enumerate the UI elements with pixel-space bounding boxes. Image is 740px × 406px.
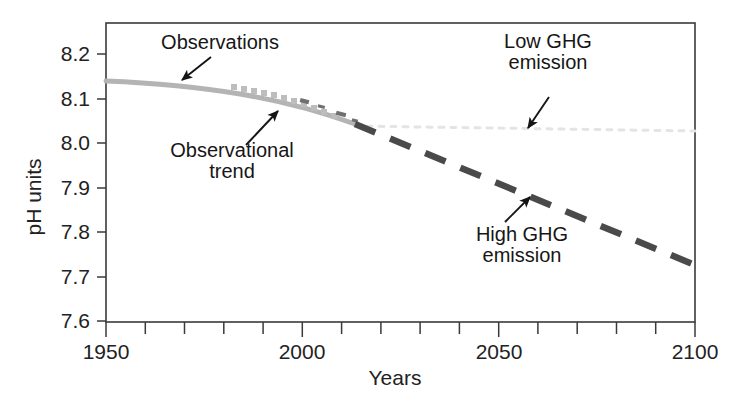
y-axis-ticks — [97, 54, 106, 321]
observational-trend-line-2: trend — [142, 161, 322, 182]
x-axis-title: Years — [340, 366, 450, 390]
low-ghg-arrow — [528, 97, 549, 128]
observations-arrow — [182, 57, 211, 80]
observational-trend-line-1: Observational — [142, 140, 322, 161]
high-ghg-line-2: emission — [447, 245, 597, 266]
series-low-ghg-emission — [355, 126, 695, 131]
y-tick-label-8-1: 8.1 — [30, 87, 90, 111]
y-tick-label-8-2: 8.2 — [30, 42, 90, 66]
series-observational-trend — [106, 81, 355, 124]
x-tick-label-2000: 2000 — [262, 340, 342, 364]
x-tick-label-1950: 1950 — [66, 340, 146, 364]
annotation-observations: Observations — [150, 32, 290, 53]
annotation-observational-trend: Observational trend — [142, 140, 322, 182]
annotation-low-ghg-emission: Low GHG emission — [473, 31, 623, 73]
x-tick-label-2050: 2050 — [459, 340, 539, 364]
low-ghg-line-2: emission — [473, 52, 623, 73]
annotation-high-ghg-emission: High GHG emission — [447, 224, 597, 266]
y-tick-label-7-6: 7.6 — [30, 309, 90, 333]
high-ghg-arrow — [505, 197, 530, 222]
y-tick-label-7-7: 7.7 — [30, 265, 90, 289]
x-tick-label-2100: 2100 — [655, 340, 735, 364]
high-ghg-line-1: High GHG — [447, 224, 597, 245]
ocean-ph-projection-chart: 8.2 8.1 8.0 7.9 7.8 7.7 7.6 1950 2000 20… — [0, 0, 740, 406]
x-axis-ticks — [106, 322, 695, 337]
y-axis-title: pH units — [22, 142, 46, 252]
low-ghg-line-1: Low GHG — [473, 31, 623, 52]
